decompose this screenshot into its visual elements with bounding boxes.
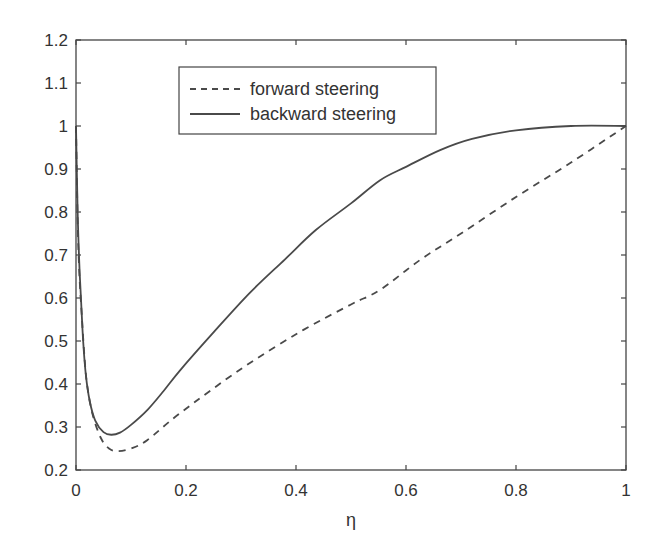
y-tick-label: 1.1 <box>44 74 68 93</box>
y-tick-label: 0.2 <box>44 461 68 480</box>
legend-label-forward: forward steering <box>250 79 379 99</box>
y-tick-label: 0.3 <box>44 418 68 437</box>
y-tick-label: 0.5 <box>44 332 68 351</box>
x-tick-label: 0.6 <box>394 481 418 500</box>
line-chart: 0.20.30.40.50.60.70.80.911.11.2 00.20.40… <box>0 0 658 550</box>
series-forward-steering <box>76 126 626 451</box>
series-backward-steering <box>76 126 626 435</box>
plot-series <box>76 126 626 451</box>
x-axis-label: η <box>346 510 356 530</box>
y-tick-label: 1.2 <box>44 31 68 50</box>
legend: forward steering backward steering <box>179 67 436 134</box>
legend-label-backward: backward steering <box>250 104 396 124</box>
y-tick-label: 0.9 <box>44 160 68 179</box>
y-tick-label: 1 <box>59 117 68 136</box>
x-tick-label: 0.4 <box>284 481 308 500</box>
y-tick-label: 0.8 <box>44 203 68 222</box>
y-tick-label: 0.7 <box>44 246 68 265</box>
x-tick-label: 0 <box>71 481 80 500</box>
x-tick-label: 1 <box>621 481 630 500</box>
y-tick-label: 0.6 <box>44 289 68 308</box>
x-tick-label: 0.2 <box>174 481 198 500</box>
y-tick-label: 0.4 <box>44 375 68 394</box>
x-tick-label: 0.8 <box>504 481 528 500</box>
